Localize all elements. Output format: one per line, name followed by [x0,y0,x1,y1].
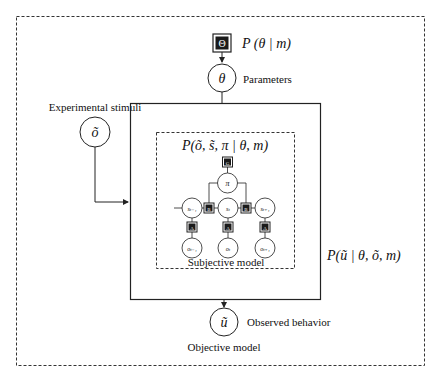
likelihood-formula: P(ũ | θ, õ, m) [326,248,401,264]
state-label: sₜ [226,206,230,212]
parameters-node: θ [208,64,236,92]
observation-label: oₜ [226,246,231,252]
state-label: sₜ₋₁ [187,206,196,212]
state-label: sₜ₊₁ [260,206,269,212]
transition-factor-1: B [204,203,214,213]
response-node: ũ [210,308,238,336]
likelihood-factor-symbol: A [190,226,194,231]
observation-label: oₜ₊₁ [260,246,270,252]
subjective-model-label: Subjective model [188,256,265,268]
transition-factor-2: B [241,203,251,213]
graphical-model-diagram: Θ P (θ | m) θ Parameters Experimental st… [0,0,442,381]
subjective-formula: P(õ, s̃, π | θ, m) [181,138,269,154]
stimuli-label: Experimental stimuli [49,101,142,113]
response-label: Observed behavior [247,316,331,328]
stimuli-symbol: õ [92,125,99,140]
observation-label: oₜ₋₁ [187,246,197,252]
state-node-t-minus-1: sₜ₋₁ [182,198,202,218]
observation-branch-t-plus-1: A oₜ₊₁ [255,218,275,258]
response-symbol: ũ [221,315,228,330]
state-node-t-plus-1: sₜ₊₁ [255,198,275,218]
state-node-t: sₜ [218,198,238,218]
observation-branch-t: A oₜ [218,218,238,258]
parameters-symbol: θ [219,71,226,86]
prior-factor-node: Θ [213,34,231,52]
stimuli-to-model-edge [95,147,128,202]
likelihood-factor-symbol: A [263,226,267,231]
prior-factor-symbol: Θ [218,38,225,49]
likelihood-factor-symbol: A [226,226,230,231]
prior-formula: P (θ | m) [241,36,291,52]
policy-node: π [218,173,238,193]
stimuli-node: õ [80,117,110,147]
parameters-label: Parameters [243,73,292,85]
policy-prior-factor: G [223,157,233,167]
objective-model-label: Objective model [187,341,260,353]
observation-branch-t-minus-1: A oₜ₋₁ [182,218,202,258]
policy-factor-symbol: G [226,161,230,166]
